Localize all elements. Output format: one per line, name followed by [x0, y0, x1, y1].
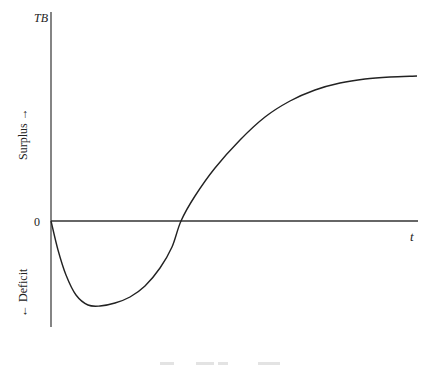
- x-axis-label: t: [410, 229, 414, 244]
- trade-balance-curve: [51, 76, 417, 306]
- deficit-label: ← Deficit: [16, 268, 30, 317]
- surplus-label: Surplus →: [16, 108, 30, 160]
- origin-label: 0: [34, 215, 40, 229]
- y-axis-label: TB: [34, 11, 49, 25]
- j-curve-chart: TB t 0 Surplus → ← Deficit: [0, 0, 431, 365]
